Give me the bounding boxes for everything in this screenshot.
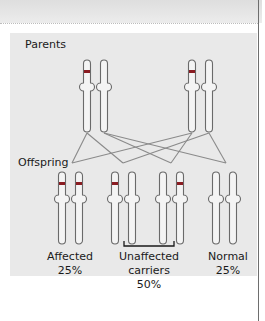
offspring-1-chromosome-1 <box>55 172 70 244</box>
chromosome-body <box>209 172 224 244</box>
offspring-3-chromosome-1 <box>156 172 171 244</box>
outcome-affected-name: Affected <box>40 250 100 264</box>
outcome-normal-name: Normal <box>198 250 258 264</box>
inheritance-line-2 <box>87 133 123 163</box>
offspring-2-chromosome-2 <box>125 172 140 244</box>
mutant-allele-band <box>112 182 118 185</box>
outcome-carriers-name-line2: carriers <box>113 264 185 278</box>
parent-1-chromosome-2 <box>97 60 112 132</box>
offspring-label: Offspring <box>18 156 68 170</box>
offspring-2-chromosome-1 <box>108 172 123 244</box>
outcome-carriers-percent: 50% <box>113 278 185 292</box>
chromosome-body <box>125 172 140 244</box>
mutant-allele-band <box>84 70 90 73</box>
outcome-carriers-name-line1: Unaffected <box>113 250 185 264</box>
mutant-allele-band <box>59 182 65 185</box>
chromosome-body <box>202 60 217 132</box>
parent-2-chromosome-2 <box>202 60 217 132</box>
offspring-3-chromosome-2 <box>173 172 188 244</box>
outcome-normal: Normal 25% <box>198 250 258 278</box>
outcome-affected: Affected 25% <box>40 250 100 278</box>
mutant-allele-band <box>76 182 82 185</box>
cross-lines <box>72 133 226 163</box>
inheritance-line-7 <box>123 133 209 163</box>
outcome-affected-percent: 25% <box>40 264 100 278</box>
parents-label: Parents <box>25 38 66 52</box>
chromosome-body <box>97 60 112 132</box>
inheritance-line-1 <box>72 133 87 163</box>
outcome-carriers: Unaffected carriers 50% <box>113 250 185 292</box>
chromosome-body <box>156 172 171 244</box>
parent-2-chromosome-1 <box>185 60 200 132</box>
outcome-normal-percent: 25% <box>198 264 258 278</box>
mutant-allele-band <box>177 182 183 185</box>
parent-1-chromosome-1 <box>80 60 95 132</box>
chromosome-body <box>226 172 241 244</box>
inheritance-line-8 <box>209 133 226 163</box>
mutant-allele-band <box>189 70 195 73</box>
offspring-4-chromosome-2 <box>226 172 241 244</box>
offspring-1-chromosome-2 <box>72 172 87 244</box>
offspring-4-chromosome-1 <box>209 172 224 244</box>
